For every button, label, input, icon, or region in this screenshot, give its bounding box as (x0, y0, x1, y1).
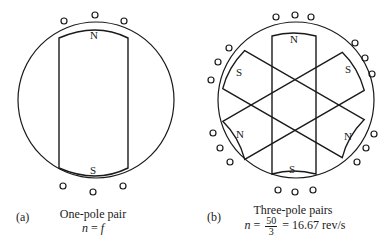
conductor-icon (292, 189, 298, 195)
conductor-icon (275, 187, 281, 193)
formula-rhs: f (101, 221, 104, 235)
pole-label-south: S (90, 164, 96, 176)
formula-eq: = (254, 218, 261, 232)
rotor-one-pole-pair (59, 30, 128, 176)
caption-formula-a: n = f (58, 221, 128, 236)
conductor-icon (61, 18, 67, 24)
rotor-three-pole-pairs (220, 33, 367, 174)
conductor-icon (227, 159, 233, 165)
panel-tag-b: (b) (207, 210, 221, 225)
pole-label-south: S (236, 66, 242, 78)
conductor-icon (60, 183, 66, 189)
conductor-icon (310, 187, 316, 193)
conductor-icon (273, 14, 279, 20)
formula-eq: = (91, 221, 98, 235)
conductor-icon (226, 45, 232, 51)
conductor-icon (208, 77, 214, 83)
conductor-icon (362, 55, 368, 61)
formula-fraction: 50 3 (265, 216, 277, 237)
pole-label-north: N (90, 29, 98, 41)
formula-lhs: n (82, 221, 88, 235)
conductor-icon (217, 145, 223, 151)
pole-label-south: S (345, 63, 351, 75)
formula-eq: = (282, 218, 289, 232)
conductor-icon (210, 130, 216, 136)
pole-label-north: N (344, 130, 352, 142)
conductor-icon (92, 12, 98, 18)
panel-tag-a: (a) (16, 210, 29, 225)
conductor-icon (121, 18, 127, 24)
caption-title-a: One-pole pair (58, 207, 128, 222)
stator-circle-a (18, 22, 174, 178)
pole-label-north: N (236, 128, 244, 140)
caption-formula-b: n = 50 3 = 16.67 rev/s (240, 216, 350, 237)
conductor-icon (363, 145, 369, 151)
formula-result: 16.67 rev/s (292, 218, 345, 232)
conductor-icon (352, 40, 358, 46)
pole-label-north: N (290, 33, 298, 45)
conductor-icon (371, 131, 377, 137)
conductor-icon (292, 12, 298, 18)
conductor-icon (90, 189, 96, 195)
fraction-denominator: 3 (265, 227, 277, 237)
conductor-icon (215, 59, 221, 65)
pole-label-south: S (289, 163, 295, 175)
conductor-icon (120, 183, 126, 189)
conductor-icon (308, 14, 314, 20)
formula-lhs: n (245, 218, 251, 232)
conductor-icon (354, 159, 360, 165)
